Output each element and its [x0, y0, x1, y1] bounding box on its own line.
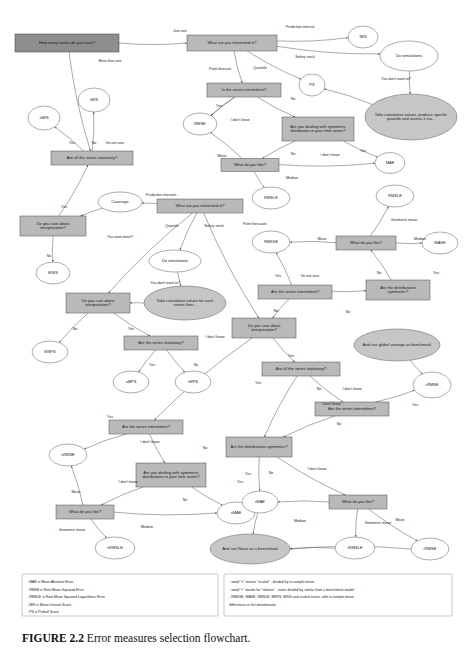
edge-label: I don't know [307, 467, 326, 471]
legend-item-right: - RMSSE, MASE, RMSLE, MSPS, MSIS and sca… [229, 595, 354, 599]
node-label: Do you care aboutinterpretation? [248, 323, 282, 333]
node-n_rmsse: RMSSE [252, 231, 290, 253]
legend-item-left: - RMSLE is Root Mean Squared Logarithmic… [27, 595, 106, 599]
edge-label: Just one [173, 29, 187, 33]
edge-label: I don't know [205, 335, 224, 339]
edge-label: No [274, 309, 279, 313]
edge-label: Point forecasts [243, 222, 267, 226]
edge-label: Yes [149, 363, 155, 367]
node-n_msis: MSIS [36, 262, 70, 284]
node-label: RMSSE [264, 239, 279, 244]
node-label: Do you care aboutinterpretation? [82, 298, 116, 308]
node-label: MIS [359, 34, 366, 39]
edge-label: More than one [98, 59, 121, 63]
edge-q_intermittent_top-to-q_symmetric_top [257, 97, 295, 117]
node-q_care_interp_2: Do you care aboutinterpretation? [66, 293, 130, 313]
node-q_do_sim_mid: Do simulations [149, 250, 201, 272]
node-n_naive_bench: And use Naive as a benchmark [210, 534, 290, 564]
figure-caption-label: FIGURE 2.2 [22, 632, 84, 644]
edge-label: No [291, 97, 296, 101]
node-q_care_interp_1: Do you care aboutinterpretation? [20, 216, 86, 236]
node-label: How many series do you have? [39, 40, 96, 45]
edge-q_all_stationary_3-to-q_intermittent_low [310, 376, 343, 402]
node-label: rMAE [255, 499, 265, 504]
node-label: sMAE [231, 510, 242, 515]
node-label: MASE [434, 240, 446, 245]
edge-q_like_bot-to-n_srmse [71, 466, 83, 505]
edge-label: No [291, 152, 296, 156]
edge-label: Yes [255, 381, 261, 385]
node-label: What do you like? [234, 162, 267, 167]
edge-label: I don't know [140, 440, 159, 444]
legend-item-left: - MIS is Mean Interval Score [27, 603, 71, 607]
node-label: rMIS [90, 97, 99, 102]
node-label: sRMSE [61, 452, 75, 457]
node-label: MSIS [48, 270, 58, 275]
edge-q_distrib_sym_bot-to-n_rmae [259, 457, 260, 491]
node-label: Are the series intermittent? [271, 289, 320, 294]
node-q_like_bot: What do you like? [56, 505, 114, 519]
edge-q_like_bot-to-n_srmsle [91, 519, 107, 538]
edge-q_like_top-to-n_mae_top [279, 163, 375, 166]
node-label: Are you dealing with symmetricdistributi… [142, 470, 200, 480]
node-n_take_cum_top: Take cumulative values, produce specific… [365, 94, 457, 140]
node-n_rmsle_mid: RMSLE [376, 185, 414, 207]
node-label: RMSLE [388, 193, 402, 198]
edge-label: No [203, 446, 208, 450]
edge-label: Mean [72, 490, 81, 494]
figure-page: How many series do you have?What are you… [0, 0, 474, 665]
node-q_do_sim_top: Do simulations [380, 41, 438, 71]
edge-q_interested_top-to-n_mis [277, 38, 348, 42]
legend-item-right: - small "s" means "scaled" - divided by … [229, 580, 314, 584]
legend-item-left: - RMSE is Root Mean Squared Error [27, 588, 85, 592]
legend-item-right: differences in the denominator [229, 603, 277, 607]
edge-q_series_stationary_2-to-n_rmps [167, 350, 185, 372]
legend-layer: - MAE is Mean Absolute Error,- RMSE is R… [22, 574, 452, 616]
edge-q_intermittent_bot-to-q_symmetric_bot [150, 434, 165, 463]
edge-label: Mean [218, 154, 227, 158]
node-n_rmps: rMPS [175, 371, 211, 393]
node-n_mae_top: MAE [375, 153, 405, 174]
edge-label: Safety stock [204, 224, 224, 228]
node-q_like_bot2: What do you like? [329, 495, 387, 509]
node-q_distrib_sym_bot: Are the distributions symmetric? [226, 437, 292, 457]
edge-q_like_top-to-n_rmsle_top [254, 172, 264, 188]
edge-q_interested_mid-to-n_coverage [142, 203, 157, 204]
edge-n_global_avg-to-n_rrmse_mid [410, 360, 422, 374]
edge-label: I don't know [118, 480, 137, 484]
edge-label: Yes [245, 472, 251, 476]
edge-q_intermittent_top-to-n_rmse_top [211, 97, 235, 116]
edge-label: You want more? [107, 235, 133, 239]
node-q_like_mid: What do you like? [336, 236, 396, 250]
node-q_series_count: How many series do you have? [15, 34, 119, 52]
edge-label: Geometric mean [391, 218, 418, 222]
edge-label: Quantile [165, 224, 178, 228]
edge-label: No [377, 271, 382, 275]
node-label: What do you like? [342, 499, 375, 504]
node-label: What are you interested in? [208, 40, 258, 45]
node-label: Are you dealing with symmetricdistributi… [290, 124, 346, 134]
edge-label: Yes [128, 327, 134, 331]
node-n_msps: MSPS [32, 341, 68, 363]
node-n_srmse: sRMSE [49, 444, 87, 466]
edge-q_like_mid-to-n_rmsse [290, 241, 336, 242]
edge-q_distrib_sym_bot-to-q_like_bot2 [277, 457, 345, 495]
edge-q_care_interp_3-to-q_all_stationary_3 [273, 338, 295, 362]
edge-label: No [337, 422, 342, 426]
figure-caption-text: Error measures selection flowchart. [87, 632, 251, 644]
edge-label: Geometric mean [365, 521, 392, 525]
node-q_all_stationary_1: Are all the series stationary? [51, 151, 133, 165]
edge-q_distrib_sym_mid-to-q_like_mid [371, 250, 391, 280]
edge-label: Geometric mean [59, 528, 86, 532]
edge-label: Yes [69, 141, 75, 145]
edge-label: Yes [216, 104, 222, 108]
node-label: sMIS [39, 115, 48, 120]
edge-q_intermittent_mid-to-q_distrib_sym_mid [332, 291, 366, 292]
node-label: rMPS [188, 379, 198, 384]
edge-q_care_interp_2-to-q_series_stationary_2 [114, 313, 150, 336]
node-n_rmsle_top: RMSLE [252, 187, 290, 209]
node-label: Are the distributions symmetric? [231, 444, 289, 449]
node-n_rmis: rMIS [78, 88, 110, 112]
edge-label: No [92, 141, 97, 145]
node-n_rrmsle: rRMSLE [335, 537, 375, 559]
